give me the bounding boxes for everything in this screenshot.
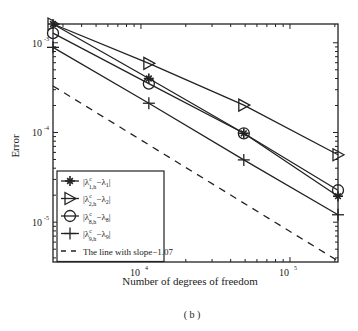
legend-label-part: c [89,176,92,182]
series-line [53,33,338,190]
y-tick-label: 10 [32,127,42,138]
x-tick-label: 10 [279,267,289,278]
legend: |λc1,h−λ1||λc2,h−λ2||λc8,h−λ8||λc9,h−λ9|… [57,171,174,262]
legend-label-part: c [89,211,92,217]
x-axis-label: Number of degrees of freedom [122,275,258,287]
series-line [53,24,338,155]
legend-label-part: | [109,177,111,187]
legend-label-part: | [109,194,111,204]
legend-label: The line with slope−1.07 [83,247,174,257]
x-tick-exponent: 4 [145,265,148,271]
legend-label-part: | [109,212,111,222]
data-point-plus [238,154,250,166]
legend-label-part: 2,h [89,201,97,207]
series-2 [48,18,344,161]
y-tick-exponent: -4 [44,125,49,131]
legend-label-part: c [89,228,92,234]
series-line [53,24,338,196]
y-tick-exponent: -3 [44,36,49,42]
legend-label-part: | [109,229,111,239]
data-point-plus [332,209,344,221]
legend-label-part: c [89,193,92,199]
figure-caption: ( b ) [184,309,201,321]
legend-label-part: 9,h [89,236,97,242]
y-tick-label: 10 [32,38,42,49]
chart: 10410510-310-410-5 Error Number of degre… [0,0,358,331]
y-tick-label: 10 [32,217,42,228]
x-tick-exponent: 5 [294,265,297,271]
legend-label-part: 8,h [89,219,97,225]
y-tick-exponent: -5 [44,215,49,221]
data-point-plus [143,97,155,109]
legend-label-part: 1,h [89,184,97,190]
y-axis-label: Error [9,134,21,158]
